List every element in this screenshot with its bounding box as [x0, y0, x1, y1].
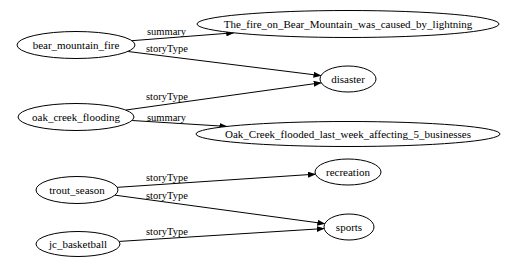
graph-figure: summarystoryTypestoryTypesummarystoryTyp… [0, 0, 517, 269]
node-label-disaster: disaster [331, 73, 365, 85]
node-layer: bear_mountain_fireThe_fire_on_Bear_Mount… [17, 11, 500, 257]
node-trout_season: trout_season [36, 177, 118, 204]
edge-label: summary [147, 112, 187, 123]
graph-canvas: summarystoryTypestoryTypesummarystoryTyp… [0, 0, 517, 269]
node-label-flood_summary: Oak_Creek_flooded_last_week_affecting_5_… [225, 128, 471, 140]
node-label-trout_season: trout_season [49, 184, 105, 196]
node-label-bear_mountain_fire: bear_mountain_fire [33, 39, 120, 51]
node-fire_summary: The_fire_on_Bear_Mountain_was_caused_by_… [197, 11, 499, 38]
edge-label: storyType [146, 91, 188, 102]
edge-bear_mountain_fire-disaster [128, 51, 321, 75]
node-label-fire_summary: The_fire_on_Bear_Mountain_was_caused_by_… [224, 18, 473, 30]
node-jc_basketball: jc_basketball [36, 232, 120, 257]
edge-label: summary [147, 26, 187, 37]
node-disaster: disaster [320, 66, 376, 92]
edge-label: storyType [146, 226, 188, 237]
edge-label: storyType [146, 190, 188, 201]
edge-label: storyType [146, 43, 188, 54]
node-label-sports: sports [336, 221, 362, 233]
node-sports: sports [324, 214, 374, 240]
node-bear_mountain_fire: bear_mountain_fire [17, 32, 135, 59]
node-label-oak_creek_flooding: oak_creek_flooding [32, 111, 120, 123]
node-recreation: recreation [315, 159, 381, 185]
node-oak_creek_flooding: oak_creek_flooding [18, 104, 134, 131]
node-flood_summary: Oak_Creek_flooded_last_week_affecting_5_… [196, 122, 500, 147]
node-label-jc_basketball: jc_basketball [48, 238, 107, 250]
edge-label: storyType [146, 172, 188, 183]
node-label-recreation: recreation [326, 166, 370, 178]
